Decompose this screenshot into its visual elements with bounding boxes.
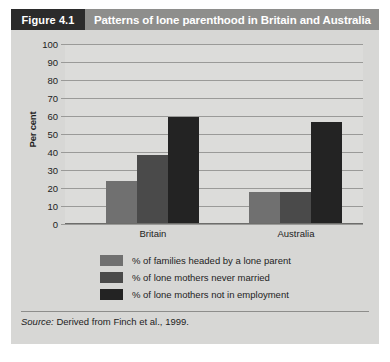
legend-item: % of families headed by a lone parent <box>11 252 379 269</box>
y-tick-label: 80 <box>47 75 58 86</box>
y-tick-label: 100 <box>42 39 58 50</box>
legend-label: % of lone mothers never married <box>132 272 270 283</box>
x-axis-group-label: Britain <box>139 228 166 239</box>
y-tick-mark <box>61 98 65 99</box>
source-divider <box>21 311 369 312</box>
source-label: Source: <box>21 316 54 327</box>
bar <box>137 155 168 223</box>
y-tick-mark <box>61 80 65 81</box>
y-tick-label: 0 <box>53 219 58 230</box>
y-tick-label: 20 <box>47 183 58 194</box>
figure-header: Figure 4.1 Patterns of lone parenthood i… <box>11 9 379 30</box>
y-tick-label: 40 <box>47 147 58 158</box>
legend-label: % of lone mothers not in employment <box>132 289 289 300</box>
chart-plot-region: Per cent 0102030405060708090100BritainAu… <box>11 30 379 252</box>
y-tick-label: 30 <box>47 165 58 176</box>
y-tick-mark <box>61 206 65 207</box>
legend-swatch <box>100 272 123 283</box>
legend-label: % of families headed by a lone parent <box>132 255 291 266</box>
y-tick-mark <box>61 170 65 171</box>
legend-swatch <box>100 255 123 266</box>
y-tick-label: 50 <box>47 129 58 140</box>
y-tick-label: 70 <box>47 93 58 104</box>
gridline <box>65 62 363 63</box>
bar <box>311 122 342 223</box>
gridline <box>65 116 363 117</box>
figure-number-tag: Figure 4.1 <box>11 9 85 30</box>
gridline <box>65 98 363 99</box>
y-tick-label: 90 <box>47 57 58 68</box>
bar <box>168 117 199 223</box>
legend-item: % of lone mothers not in employment <box>11 286 379 303</box>
legend-swatch <box>100 289 123 300</box>
y-tick-mark <box>61 224 65 225</box>
gridline <box>65 44 363 45</box>
bar <box>280 192 311 223</box>
source-value: Derived from Finch et al., 1999. <box>54 316 189 327</box>
plot-area: 0102030405060708090100BritainAustralia <box>65 44 363 224</box>
y-tick-mark <box>61 188 65 189</box>
y-tick-mark <box>61 44 65 45</box>
gridline <box>65 224 363 225</box>
y-axis-title: Per cent <box>27 100 38 160</box>
bar <box>106 181 137 223</box>
y-tick-label: 10 <box>47 201 58 212</box>
source-caption: Source: Derived from Finch et al., 1999. <box>21 316 189 327</box>
figure-title: Patterns of lone parenthood in Britain a… <box>85 9 379 30</box>
y-tick-label: 60 <box>47 111 58 122</box>
bar <box>249 192 280 223</box>
legend-item: % of lone mothers never married <box>11 269 379 286</box>
gridline <box>65 80 363 81</box>
y-tick-mark <box>61 62 65 63</box>
chart-legend: % of families headed by a lone parent% o… <box>11 252 379 303</box>
y-tick-mark <box>61 116 65 117</box>
x-axis-group-label: Australia <box>277 228 314 239</box>
y-tick-mark <box>61 152 65 153</box>
y-tick-mark <box>61 134 65 135</box>
